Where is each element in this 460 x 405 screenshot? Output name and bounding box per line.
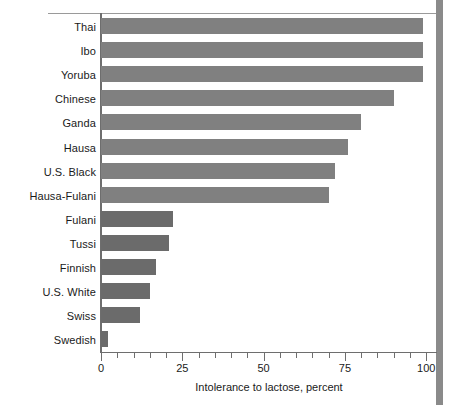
category-label: Yoruba — [61, 63, 96, 87]
bar-row — [101, 211, 436, 227]
bar — [101, 114, 361, 130]
category-label: U.S. White — [42, 280, 96, 304]
bar — [101, 187, 329, 203]
bar-row — [101, 331, 436, 347]
page-edge-band — [436, 0, 443, 405]
x-tick-minor — [329, 353, 330, 358]
category-label: Finnish — [60, 256, 96, 280]
x-tick-minor — [134, 353, 135, 358]
x-tick-minor — [215, 353, 216, 358]
category-label: Thai — [74, 15, 96, 39]
bar — [101, 211, 173, 227]
x-axis-title: Intolerance to lactose, percent — [101, 381, 437, 393]
bar-row — [101, 259, 436, 275]
x-tick-minor — [231, 353, 232, 358]
category-label: Fulani — [65, 208, 96, 232]
bar — [101, 163, 335, 179]
x-axis-tick-labels: 0255075100 — [0, 362, 460, 378]
bar — [101, 307, 140, 323]
category-label: Ganda — [62, 111, 96, 135]
bar — [101, 235, 169, 251]
bar-row — [101, 307, 436, 323]
x-tick-minor — [410, 353, 411, 358]
x-tick-minor — [296, 353, 297, 358]
bar — [101, 331, 108, 347]
bar-row — [101, 66, 436, 82]
x-tick-minor — [394, 353, 395, 358]
bar-row — [101, 139, 436, 155]
lactose-intolerance-bar-chart: ThaiIboYorubaChineseGandaHausaU.S. Black… — [0, 0, 460, 405]
category-label: Swedish — [54, 328, 96, 352]
bar-row — [101, 114, 436, 130]
x-axis-ticks — [101, 353, 437, 361]
category-label: Chinese — [55, 87, 96, 111]
bar — [101, 259, 156, 275]
bar-row — [101, 18, 436, 34]
x-tick-major — [101, 353, 102, 361]
bar — [101, 283, 150, 299]
x-tick-minor — [377, 353, 378, 358]
bar-row — [101, 42, 436, 58]
bar — [101, 90, 394, 106]
x-tick-minor — [199, 353, 200, 358]
x-tick-major — [264, 353, 265, 361]
bar — [101, 18, 423, 34]
category-label: Ibo — [80, 39, 96, 63]
bar-row — [101, 90, 436, 106]
x-tick-major — [182, 353, 183, 361]
bar-rows — [101, 14, 436, 352]
x-tick-label: 25 — [176, 362, 188, 374]
x-tick-minor — [117, 353, 118, 358]
bar-row — [101, 187, 436, 203]
category-label-column: ThaiIboYorubaChineseGandaHausaU.S. Black… — [0, 14, 96, 352]
x-tick-minor — [312, 353, 313, 358]
bar-row — [101, 283, 436, 299]
x-tick-label: 100 — [417, 362, 435, 374]
category-label: Tussi — [70, 232, 96, 256]
x-tick-major — [345, 353, 346, 361]
bar — [101, 42, 423, 58]
plot-area — [101, 14, 436, 352]
bar-row — [101, 235, 436, 251]
x-tick-minor — [166, 353, 167, 358]
x-tick-minor — [150, 353, 151, 358]
x-tick-minor — [280, 353, 281, 358]
x-tick-major — [426, 353, 427, 361]
category-label: U.S. Black — [44, 160, 96, 184]
category-label: Hausa — [64, 136, 96, 160]
x-tick-minor — [361, 353, 362, 358]
x-tick-minor — [247, 353, 248, 358]
x-tick-label: 50 — [257, 362, 269, 374]
category-label: Swiss — [67, 304, 96, 328]
x-tick-label: 0 — [98, 362, 104, 374]
bar — [101, 139, 348, 155]
category-label: Hausa-Fulani — [29, 184, 96, 208]
bar-row — [101, 163, 436, 179]
bar — [101, 66, 423, 82]
x-tick-label: 75 — [339, 362, 351, 374]
